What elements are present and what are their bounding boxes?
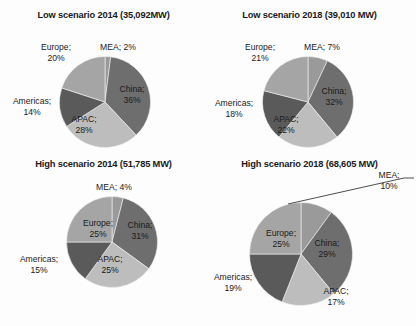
- slice-label-europe-line2: 20%: [28, 53, 84, 64]
- slice-label-americas: Americas; 14%: [2, 96, 62, 117]
- slice-label-europe: Europe; 21%: [232, 42, 288, 63]
- slice-label-europe: Europe; 20%: [28, 42, 84, 63]
- slice-label-apac-line2: 28%: [62, 125, 106, 136]
- slice-label-americas: Americas; 15%: [8, 254, 70, 275]
- slice-label-china-line1: China;: [322, 86, 347, 96]
- slice-label-apac: APAC; 28%: [62, 114, 106, 135]
- slice-label-mea-line1: MEA; 2%: [100, 42, 136, 52]
- slice-label-china-line2: 32%: [312, 97, 356, 108]
- slice-label-apac: APAC; 22%: [264, 114, 308, 135]
- slice-label-europe-line1: Europe;: [83, 218, 113, 228]
- slice-label-china: China; 31%: [118, 220, 162, 241]
- chart-title: High scenario 2018 (68,605 MW): [206, 159, 413, 169]
- slice-label-apac-line2: 22%: [264, 125, 308, 136]
- slice-label-china-line2: 36%: [110, 95, 154, 106]
- slice-label-apac-line1: APAC;: [97, 254, 122, 264]
- chart-title: Low scenario 2014 (35,092MW): [0, 10, 207, 20]
- slice-label-mea: MEA; 10%: [366, 170, 412, 191]
- slice-label-americas-line2: 15%: [8, 265, 70, 276]
- slice-label-europe-line1: Europe;: [245, 42, 275, 52]
- slice-label-mea-line1: MEA; 7%: [304, 42, 340, 52]
- slice-label-europe: Europe; 25%: [72, 218, 124, 239]
- slice-label-europe-line2: 25%: [72, 229, 124, 240]
- slice-label-mea: MEA; 7%: [290, 42, 354, 53]
- slice-label-apac: APAC; 17%: [310, 286, 362, 307]
- slice-label-china-line1: China;: [120, 84, 145, 94]
- slice-label-mea-line1: MEA;: [378, 170, 399, 180]
- slice-label-americas-line2: 19%: [202, 283, 264, 294]
- slice-label-americas-line2: 18%: [204, 109, 264, 120]
- slice-label-apac: APAC; 25%: [88, 254, 132, 275]
- slice-label-americas-line2: 14%: [2, 107, 62, 118]
- slice-label-americas-line1: Americas;: [214, 272, 252, 282]
- slice-label-apac-line1: APAC;: [71, 114, 96, 124]
- slice-label-americas-line1: Americas;: [13, 96, 51, 106]
- slice-label-mea-line2: 10%: [366, 181, 412, 192]
- slice-label-china: China; 32%: [312, 86, 356, 107]
- slice-label-americas-line1: Americas;: [215, 98, 253, 108]
- slice-label-americas: Americas; 19%: [202, 272, 264, 293]
- slice-label-china: China; 29%: [304, 238, 350, 259]
- slice-label-china-line1: China;: [128, 220, 153, 230]
- slice-label-apac-line1: APAC;: [323, 286, 348, 296]
- slice-label-mea-line1: MEA; 4%: [96, 182, 132, 192]
- slice-label-apac-line2: 17%: [310, 297, 362, 308]
- slice-label-europe-line1: Europe;: [41, 42, 71, 52]
- chart-title: High scenario 2014 (51,785 MW): [0, 159, 207, 169]
- slice-label-china-line2: 29%: [304, 249, 350, 260]
- chart-title: Low scenario 2018 (39,010 MW): [206, 10, 413, 20]
- chart-panel-high-2014: High scenario 2014 (51,785 MW) MEA; 4% E…: [0, 156, 207, 326]
- slice-label-apac-line1: APAC;: [273, 114, 298, 124]
- slice-label-americas-line1: Americas;: [20, 254, 58, 264]
- slice-label-apac-line2: 25%: [88, 265, 132, 276]
- slice-label-china-line2: 31%: [118, 231, 162, 242]
- slice-label-europe: Europe; 25%: [255, 228, 307, 249]
- slice-label-europe-line1: Europe;: [266, 228, 296, 238]
- slice-label-mea: MEA; 4%: [82, 182, 146, 193]
- slice-label-europe-line2: 25%: [255, 239, 307, 250]
- chart-panel-low-2018: Low scenario 2018 (39,010 MW) MEA; 7% Eu…: [206, 6, 413, 161]
- slice-label-china-line1: China;: [315, 238, 340, 248]
- slice-label-americas: Americas; 18%: [204, 98, 264, 119]
- slice-label-china: China; 36%: [110, 84, 154, 105]
- chart-panel-low-2014: Low scenario 2014 (35,092MW) MEA; 2% Eur…: [0, 6, 207, 161]
- slice-label-mea: MEA; 2%: [86, 42, 150, 53]
- slice-label-europe-line2: 21%: [232, 53, 288, 64]
- chart-panel-high-2018: High scenario 2018 (68,605 MW) MEA; 10% …: [206, 156, 413, 326]
